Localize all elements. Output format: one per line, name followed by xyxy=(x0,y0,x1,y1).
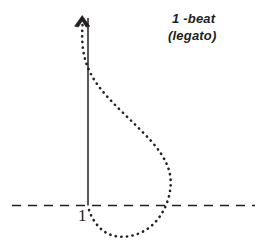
beat-count-label: 1 xyxy=(78,206,87,226)
articulation-label: (legato) xyxy=(168,28,217,43)
conducting-pattern-figure: 1 -beat (legato) 1 xyxy=(0,0,265,247)
pattern-name-label: 1 -beat xyxy=(172,11,215,26)
pattern-diagram-canvas xyxy=(0,0,265,247)
